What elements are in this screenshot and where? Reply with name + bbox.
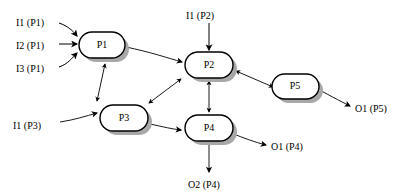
input-arrow-i3p1 [59,53,77,67]
edge-p3-p2 [149,79,181,103]
node-p3-label: P3 [119,112,130,123]
node-p1[interactable]: P1 [79,32,129,62]
node-p5[interactable]: P5 [272,74,323,103]
output-label-o1p5: O1 (P5) [355,103,387,115]
diagram-canvas: P1 P2 P3 P4 P5 I1 (P1) I2 (P1) I [0,0,411,195]
node-p4[interactable]: P4 [185,115,237,145]
output-label-o2p4: O2 (P4) [188,179,220,191]
node-p2[interactable]: P2 [185,52,237,82]
node-p4-label: P4 [204,122,215,133]
edge-p5-p2 [236,71,273,87]
input-arrow-i1p3 [60,113,97,122]
input-label-i1p1: I1 (P1) [16,17,44,29]
input-label-i1p2: I1 (P2) [186,10,214,22]
output-label-o1p4: O1 (P4) [271,141,303,153]
node-p3[interactable]: P3 [100,105,152,135]
input-label-i2p1: I2 (P1) [16,40,44,52]
process-diagram: P1 P2 P3 P4 P5 I1 (P1) I2 (P1) I [0,0,411,195]
node-p5-label: P5 [290,80,301,91]
input-label-i3p1: I3 (P1) [16,63,44,75]
edge-p3-p4 [150,124,181,130]
edge-p1-p2 [126,47,182,62]
input-label-i1p3: I1 (P3) [13,120,41,132]
node-p2-label: P2 [204,59,215,70]
edge-p1-p3 [97,64,105,101]
input-arrow-i1p1 [59,23,77,36]
node-p1-label: P1 [97,39,108,50]
